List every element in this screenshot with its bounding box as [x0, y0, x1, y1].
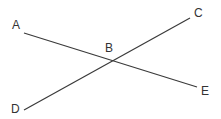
lines-layer — [0, 0, 221, 119]
line-DC — [24, 18, 190, 110]
label-c: C — [194, 7, 203, 19]
label-a: A — [12, 19, 20, 31]
label-b: B — [105, 42, 113, 54]
label-e: E — [201, 85, 209, 97]
label-d: D — [11, 103, 20, 115]
diagram-canvas: A B C D E — [0, 0, 221, 119]
